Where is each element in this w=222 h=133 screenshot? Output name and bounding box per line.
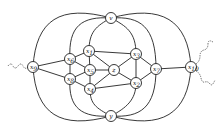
graph-diagram: vyx9x10x6x8x1x5x4zx3x2x7 [0,0,222,133]
external-connections [8,41,215,85]
node-x2: x2 [131,78,142,89]
node-subscript: 9 [33,65,37,72]
node-x8: x8 [65,74,76,85]
node-x5: x5 [85,65,96,76]
node-x7: x7 [151,64,162,75]
curved-edge-y-x7 [111,69,156,116]
node-subscript: 4 [89,87,94,94]
wavy-line-left [8,64,28,68]
curved-edge-y-x2 [111,83,136,116]
node-subscript: 10 [191,65,199,72]
edge-x1-x3 [89,51,136,54]
node-subscript: 2 [135,81,140,88]
node-subscript: 7 [156,67,160,74]
node-label: y [108,112,113,120]
node-subscript: 5 [90,68,94,75]
node-subscript: 8 [70,77,74,84]
node-subscript: 1 [89,49,93,56]
node-x6: x6 [65,54,76,65]
node-subscript: 3 [136,52,140,59]
node-y: y [106,111,117,122]
curved-edge-v-x10 [111,13,191,67]
node-x10: x10 [186,62,200,73]
node-subscript: 6 [70,57,74,64]
wavy-line-right-lower [196,71,215,85]
node-v: v [106,13,117,24]
wavy-line-right-upper [196,41,213,64]
node-x4: x4 [85,84,96,95]
node-z: z [109,65,120,76]
node-x1: x1 [84,46,95,57]
nodes: vyx9x10x6x8x1x5x4zx3x2x7 [28,13,200,122]
node-x9: x9 [28,62,39,73]
curved-edge-v-x7 [111,18,156,69]
node-x3: x3 [131,49,142,60]
